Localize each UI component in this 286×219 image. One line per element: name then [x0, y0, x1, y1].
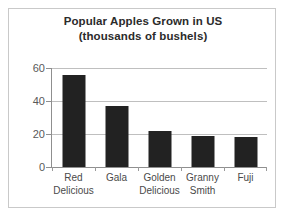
bar-gala[interactable]	[105, 106, 128, 167]
y-axis-label-60: 60	[33, 62, 45, 74]
x-label-line-1: Golden	[138, 172, 181, 185]
x-label-line-2: Delicious	[52, 185, 95, 198]
bar-fuji[interactable]	[234, 137, 257, 167]
bar-slot-4	[224, 68, 267, 167]
x-axis-label-red-delicious: Red Delicious	[52, 172, 95, 197]
x-label-line-1: Gala	[95, 172, 138, 185]
x-axis-label-granny-smith: Granny Smith	[181, 172, 224, 197]
chart-title: Popular Apples Grown in US	[0, 14, 286, 29]
y-axis-label-20: 20	[33, 128, 45, 140]
x-tick-5	[266, 167, 267, 171]
bar-golden-delicious[interactable]	[148, 131, 171, 167]
y-axis-label-40: 40	[33, 95, 45, 107]
x-tick-1	[95, 167, 96, 171]
chart-title-block: Popular Apples Grown in US (thousands of…	[0, 14, 286, 44]
x-label-line-1: Red	[52, 172, 95, 185]
chart-screenshot: Popular Apples Grown in US (thousands of…	[0, 0, 286, 219]
x-axis-labels: Red Delicious Gala Golden Delicious Gran…	[52, 172, 267, 206]
chart-subtitle: (thousands of bushels)	[0, 29, 286, 44]
x-tick-0	[52, 167, 53, 171]
bar-slot-2	[138, 68, 181, 167]
x-label-line-1: Fuji	[224, 172, 267, 185]
bar-granny-smith[interactable]	[191, 136, 214, 167]
x-tick-3	[181, 167, 182, 171]
bar-slot-3	[181, 68, 224, 167]
x-axis-label-gala: Gala	[95, 172, 138, 185]
x-axis-label-fuji: Fuji	[224, 172, 267, 185]
bar-slot-0	[52, 68, 95, 167]
bar-series	[52, 68, 267, 167]
x-axis-label-golden-delicious: Golden Delicious	[138, 172, 181, 197]
bar-red-delicious[interactable]	[62, 75, 85, 167]
x-label-line-2: Smith	[181, 185, 224, 198]
x-tick-4	[224, 167, 225, 171]
x-axis-line	[52, 167, 267, 168]
x-tick-2	[138, 167, 139, 171]
bar-slot-1	[95, 68, 138, 167]
y-axis-label-0: 0	[39, 161, 45, 173]
x-label-line-1: Granny	[181, 172, 224, 185]
x-label-line-2: Delicious	[138, 185, 181, 198]
